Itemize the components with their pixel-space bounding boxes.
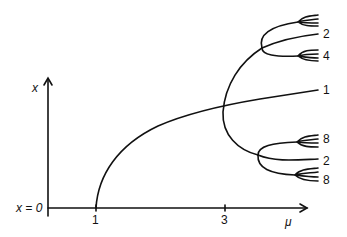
upper-branch-2 (262, 34, 318, 48)
tick-label-3: 3 (221, 214, 228, 226)
branch-label-lower-8-top: 8 (323, 133, 330, 145)
upper-bottom-tines (298, 50, 318, 61)
branch-label-main-1: 1 (323, 84, 330, 96)
upper-fork-lower (262, 48, 298, 56)
origin-label-text: x = 0 (16, 201, 42, 215)
x-axis-label: μ (285, 216, 292, 228)
branch-label-lower-2: 2 (323, 155, 330, 167)
upper-fork-upper (261, 22, 298, 48)
origin-label: x = 0 (16, 202, 42, 214)
diagram-canvas (0, 0, 347, 237)
branch-label-upper-2: 2 (323, 28, 330, 40)
y-axis-label: x (32, 82, 38, 94)
lower-fork-lower (258, 155, 295, 175)
lower-fork-upper (258, 142, 297, 155)
lower-branch-2 (258, 155, 318, 160)
upper-top-tines (298, 15, 318, 26)
main-branch-curve (96, 90, 318, 208)
branch-label-lower-8-bottom: 8 (323, 174, 330, 186)
lower-top-tines (297, 135, 318, 147)
bifurcation-diagram: x x = 0 1 3 μ 2 4 1 8 2 8 (0, 0, 347, 237)
lower-bottom-tines (295, 168, 318, 181)
tick-label-1: 1 (92, 214, 99, 226)
branch-label-upper-4: 4 (323, 50, 330, 62)
